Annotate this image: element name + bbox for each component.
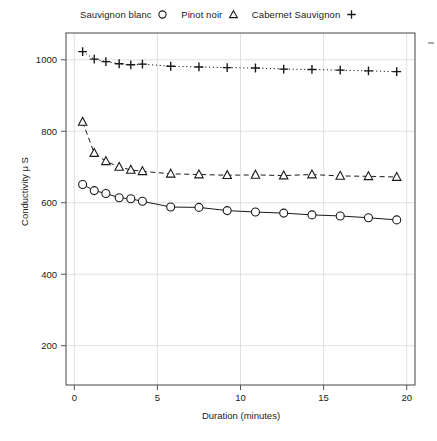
data-point-plus	[78, 47, 87, 56]
chart-plot-area: 200400600800100005101520	[0, 0, 437, 441]
data-point-plus	[126, 60, 135, 69]
data-point-circle	[251, 208, 259, 216]
data-point-triangle	[78, 117, 86, 125]
series-line	[83, 52, 397, 72]
data-point-triangle	[223, 171, 231, 179]
data-point-plus	[115, 59, 124, 68]
data-point-circle	[115, 194, 123, 202]
right-edge-tick-mark	[428, 30, 434, 32]
data-point-triangle	[102, 157, 110, 165]
chart-page: Sauvignon blanc Pinot noir Cabernet Sauv…	[0, 0, 437, 441]
series-cabernet-sauvignon	[78, 47, 401, 76]
data-point-triangle	[90, 148, 98, 156]
x-axis-label: Duration (minutes)	[66, 410, 416, 421]
x-axis-tick-label: 20	[401, 392, 412, 403]
data-point-plus	[138, 60, 147, 69]
data-point-plus	[90, 55, 99, 64]
data-point-plus	[392, 67, 401, 76]
data-point-triangle	[392, 172, 400, 180]
data-point-triangle	[308, 170, 316, 178]
data-point-circle	[308, 211, 316, 219]
data-point-triangle	[138, 167, 146, 175]
y-axis-tick-label: 600	[41, 197, 57, 208]
data-point-circle	[280, 209, 288, 217]
data-point-plus	[223, 63, 232, 72]
y-axis-tick-label: 400	[41, 269, 57, 280]
y-axis-tick-label: 200	[41, 340, 57, 351]
data-point-circle	[223, 207, 231, 215]
data-point-circle	[167, 203, 175, 211]
data-point-plus	[336, 66, 345, 75]
data-point-circle	[127, 195, 135, 203]
data-point-plus	[166, 62, 175, 71]
y-axis-tick-label: 800	[41, 126, 57, 137]
data-point-circle	[79, 181, 87, 189]
data-point-triangle	[364, 172, 372, 180]
data-point-plus	[251, 64, 260, 73]
x-axis-tick-label: 5	[155, 392, 160, 403]
y-axis-label: Conductivity μ S	[19, 137, 30, 247]
data-point-circle	[195, 203, 203, 211]
data-point-circle	[336, 212, 344, 220]
data-point-plus	[364, 66, 373, 75]
data-point-plus	[195, 63, 204, 72]
x-axis-tick-label: 15	[318, 392, 329, 403]
data-point-circle	[90, 187, 98, 195]
data-point-triangle	[115, 162, 123, 170]
data-point-triangle	[195, 170, 203, 178]
data-point-plus	[308, 65, 317, 74]
data-point-triangle	[251, 170, 259, 178]
x-axis-tick-label: 10	[235, 392, 246, 403]
data-point-circle	[364, 214, 372, 222]
data-point-plus	[101, 57, 110, 66]
data-point-triangle	[279, 171, 287, 179]
data-point-circle	[102, 189, 110, 197]
data-point-circle	[393, 216, 401, 224]
x-axis-tick-label: 0	[72, 392, 77, 403]
y-axis-tick-label: 1000	[36, 54, 57, 65]
series-sauvignon-blanc	[79, 181, 401, 224]
data-point-plus	[279, 65, 288, 74]
series-pinot-noir	[78, 117, 401, 180]
data-point-circle	[138, 197, 146, 205]
